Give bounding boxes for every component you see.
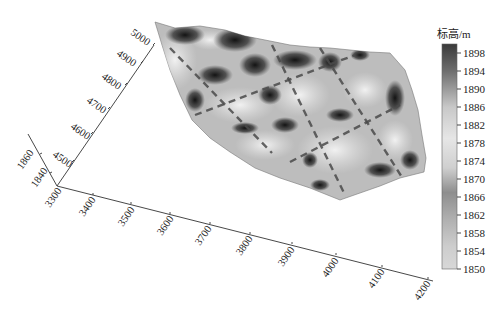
colorbar-tick-1870: 1870 [463, 173, 486, 185]
x-tick-3800: 3800 [234, 234, 255, 258]
colorbar-tick-1858: 1858 [463, 227, 486, 239]
z-tick-1860: 1860 [15, 148, 36, 172]
y-tick-5000: 5000 [129, 27, 153, 48]
surface-chart: 4500 4600 4700 4800 4900 5000 1860 1840 … [0, 0, 500, 317]
x-tick-4200: 4200 [412, 279, 433, 303]
colorbar-tick-1882: 1882 [463, 119, 485, 131]
colorbar-gradient [442, 44, 457, 269]
x-tick-3500: 3500 [116, 205, 137, 229]
x-tick-3900: 3900 [276, 245, 297, 269]
colorbar-tick-1894: 1894 [463, 65, 486, 77]
colorbar-tick-1890: 1890 [463, 83, 486, 95]
terrain-surface [153, 22, 426, 200]
x-tick-3700: 3700 [193, 224, 214, 248]
colorbar-tick-1850: 1850 [463, 263, 486, 275]
x-tick-3400: 3400 [77, 195, 98, 219]
colorbar-tick-1898: 1898 [463, 47, 486, 59]
y-tick-4600: 4600 [69, 121, 93, 142]
x-tick-4000: 4000 [320, 256, 341, 280]
colorbar: 标高/m 1898 1894 1890 1886 1882 1878 1874 … [437, 27, 486, 275]
colorbar-tick-1886: 1886 [463, 101, 486, 113]
colorbar-tick-1866: 1866 [463, 191, 486, 203]
x-tick-3600: 3600 [155, 214, 176, 238]
colorbar-tick-1862: 1862 [463, 209, 485, 221]
x-axis: 3300 3400 3500 3600 3700 3800 3900 4000 … [43, 186, 433, 303]
colorbar-tick-1854: 1854 [463, 245, 486, 257]
colorbar-title: 标高/m [437, 27, 471, 40]
z-tick-1840: 1840 [29, 166, 50, 190]
x-axis-ticks [93, 193, 428, 279]
colorbar-tick-1878: 1878 [463, 137, 486, 149]
y-tick-4700: 4700 [85, 95, 109, 116]
colorbar-tick-1874: 1874 [463, 155, 486, 167]
y-tick-4800: 4800 [100, 71, 124, 92]
z-axis: 1860 1840 [15, 134, 57, 189]
x-tick-4100: 4100 [366, 267, 387, 291]
x-tick-3300: 3300 [43, 186, 64, 210]
y-axis: 4500 4600 4700 4800 4900 5000 [51, 27, 155, 186]
colorbar-ticks [457, 53, 461, 269]
y-tick-4900: 4900 [115, 48, 139, 69]
